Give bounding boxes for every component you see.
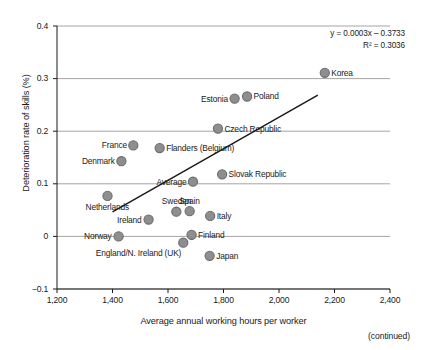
scatter-chart-figure: Deterioration rate of skills (%) Average… xyxy=(0,0,421,350)
data-point-marker[interactable] xyxy=(206,211,215,220)
y-axis-tick-label: 0.3 xyxy=(18,73,48,83)
x-axis-tick-label: 1,800 xyxy=(204,295,244,305)
data-point-label: Italy xyxy=(217,211,232,221)
x-axis-tick-label: 1,200 xyxy=(37,295,77,305)
x-axis-tick-label: 1,400 xyxy=(93,295,133,305)
data-point-label: Sweden xyxy=(162,196,191,206)
data-point-marker[interactable] xyxy=(213,124,222,133)
data-point-label: Average xyxy=(156,177,186,187)
data-point-label: Flanders (Belgium) xyxy=(166,143,234,153)
data-point-marker[interactable] xyxy=(117,157,126,166)
y-axis-tick-label: −0.1 xyxy=(18,284,48,294)
data-point-label: Korea xyxy=(331,68,353,78)
x-axis-tick-label: 1,600 xyxy=(148,295,188,305)
data-point-label: Estonia xyxy=(201,94,228,104)
y-axis-tick-label: 0.1 xyxy=(18,178,48,188)
data-point-label: France xyxy=(102,140,127,150)
data-point-label: Finland xyxy=(198,230,224,240)
data-point-label: Czech Republic xyxy=(224,124,281,134)
trendline xyxy=(113,95,318,212)
data-point-marker[interactable] xyxy=(179,238,188,247)
data-point-label: Netherlands xyxy=(86,202,130,212)
data-point-marker[interactable] xyxy=(129,141,138,150)
x-axis-tick-label: 2,400 xyxy=(370,295,410,305)
data-point-label: Japan xyxy=(216,251,238,261)
data-point-label: Norway xyxy=(84,231,112,241)
data-point-marker[interactable] xyxy=(230,94,239,103)
data-point-label: England/N. Ireland (UK) xyxy=(96,248,181,258)
data-point-marker[interactable] xyxy=(187,230,196,239)
data-point-marker[interactable] xyxy=(320,68,329,77)
data-point-marker[interactable] xyxy=(205,251,214,260)
data-point-marker[interactable] xyxy=(242,92,251,101)
data-point-label: Slovak Republic xyxy=(229,169,287,179)
data-point-marker[interactable] xyxy=(172,207,181,216)
y-axis-tick-label: 0.4 xyxy=(18,21,48,31)
x-axis-tick-label: 2,000 xyxy=(259,295,299,305)
data-point-marker[interactable] xyxy=(114,232,123,241)
data-point-marker[interactable] xyxy=(103,191,112,200)
data-point-label: Denmark xyxy=(82,156,115,166)
y-axis-tick-label: 0.2 xyxy=(18,126,48,136)
x-axis-tick-label: 2,200 xyxy=(315,295,355,305)
y-axis-tick-label: 0 xyxy=(18,231,48,241)
data-point-marker[interactable] xyxy=(144,215,153,224)
data-point-marker[interactable] xyxy=(155,143,164,152)
data-point-label: Ireland xyxy=(117,215,142,225)
data-point-label: Poland xyxy=(254,91,279,101)
data-point-marker[interactable] xyxy=(188,177,197,186)
continued-note: (continued) xyxy=(300,331,410,341)
data-point-marker[interactable] xyxy=(218,170,227,179)
data-point-marker[interactable] xyxy=(185,207,194,216)
